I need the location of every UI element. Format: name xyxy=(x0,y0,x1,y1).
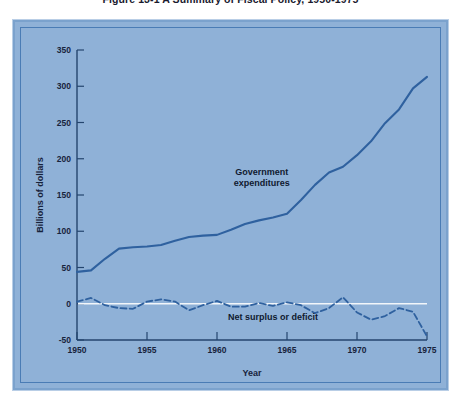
y-tick-label: 350 xyxy=(57,45,71,55)
x-tick-label: 1965 xyxy=(278,345,297,355)
x-tick-label: 1955 xyxy=(138,345,157,355)
annotation-line: expenditures xyxy=(234,178,290,188)
fiscal-policy-line-chart: -50050100150200250300350 195019551960196… xyxy=(15,22,450,392)
axes-group xyxy=(77,50,427,340)
annotation-line: Net surplus or deficit xyxy=(228,312,318,322)
y-tick-label: 250 xyxy=(57,118,71,128)
x-axis-ticks: 195019551960196519701975 xyxy=(68,332,437,355)
y-tick-label: 200 xyxy=(57,154,71,164)
annotation-line: Government xyxy=(235,167,288,177)
x-tick-label: 1960 xyxy=(208,345,227,355)
y-tick-label: -50 xyxy=(59,335,72,345)
y-tick-label: 150 xyxy=(57,190,71,200)
y-tick-label: 50 xyxy=(62,263,72,273)
plot-area: -50050100150200250300350 195019551960196… xyxy=(15,22,450,392)
figure-caption: Figure 13-1 A Summary of Fiscal Policy, … xyxy=(0,0,461,5)
x-axis-title: Year xyxy=(242,368,262,378)
x-tick-label: 1950 xyxy=(68,345,87,355)
chart-panel: -50050100150200250300350 195019551960196… xyxy=(13,20,448,390)
x-tick-label: 1975 xyxy=(418,345,437,355)
x-tick-label: 1970 xyxy=(348,345,367,355)
y-tick-label: 300 xyxy=(57,81,71,91)
y-tick-label: 100 xyxy=(57,226,71,236)
y-tick-label: 0 xyxy=(66,299,71,309)
y-axis-title: Billions of dollars xyxy=(35,157,45,233)
chart-annotations: GovernmentexpendituresNet surplus or def… xyxy=(228,167,318,322)
